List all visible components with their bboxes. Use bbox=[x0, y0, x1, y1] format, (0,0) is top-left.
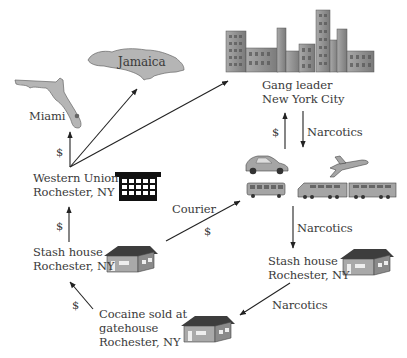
nyc-label-line1: Gang leader bbox=[262, 78, 332, 92]
nyc-money-label: $ bbox=[272, 125, 279, 139]
stash-left-label-line2: Rochester, NY bbox=[33, 259, 114, 273]
city-skyline-icon bbox=[226, 10, 374, 72]
jamaica-label: Jamaica bbox=[118, 55, 166, 69]
gatehouse-label-line3: Rochester, NY bbox=[99, 335, 180, 349]
gatehouse-label-line2: gatehouse bbox=[99, 321, 158, 335]
stash-to-gatehouse-narcotics-label: Narcotics bbox=[272, 298, 328, 312]
bus-icon bbox=[247, 183, 285, 198]
nyc-narcotics-label: Narcotics bbox=[307, 125, 363, 139]
miami-label: Miami bbox=[29, 109, 65, 123]
western-union-label-line1: Western Union bbox=[33, 171, 118, 185]
western-union-label-line2: Rochester, NY bbox=[33, 185, 114, 199]
stash-right-label-line1: Stash house bbox=[268, 254, 338, 268]
gatehouse-label-line1: Cocaine sold at bbox=[99, 307, 187, 321]
airplane-icon bbox=[330, 156, 368, 177]
courier-label: Courier bbox=[172, 202, 216, 216]
arrow-wu-to-jamaica bbox=[70, 89, 137, 167]
gatehouse-money-label: $ bbox=[72, 298, 79, 312]
train-icon bbox=[298, 183, 396, 199]
transport-narcotics-label: Narcotics bbox=[297, 221, 353, 235]
western-union-building-icon bbox=[115, 172, 161, 201]
miami-money-label: $ bbox=[56, 145, 63, 159]
stash-to-wu-money-label: $ bbox=[56, 219, 63, 233]
drug-money-flow-diagram: Jamaica Miami Gang leader New York City … bbox=[0, 0, 407, 358]
stash-left-label-line1: Stash house bbox=[33, 245, 103, 259]
stash-right-label-line2: Rochester, NY bbox=[268, 268, 349, 282]
car-icon bbox=[246, 156, 288, 174]
gatehouse-icon bbox=[181, 316, 235, 342]
miami-dot bbox=[75, 114, 80, 119]
arrow-wu-to-nyc bbox=[70, 81, 228, 167]
nyc-label-line2: New York City bbox=[262, 92, 344, 106]
courier-money-label: $ bbox=[204, 224, 211, 238]
